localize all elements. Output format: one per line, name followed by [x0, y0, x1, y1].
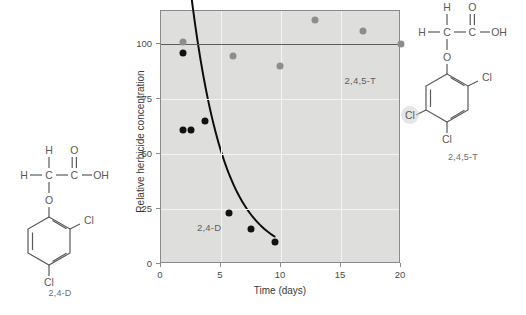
y-tick	[156, 263, 160, 264]
data-point-24d	[272, 239, 279, 246]
data-point-245t	[179, 38, 186, 45]
data-point-24d	[179, 49, 186, 56]
data-point-24d	[226, 210, 233, 217]
herbicide-scatter-chart: 2,4-D2,4,5-T 051015200255075100 Time (da…	[110, 0, 410, 300]
data-point-245t	[311, 16, 318, 23]
structure-245t-caption: 2,4,5-T	[400, 152, 526, 162]
atom-label-cl-para: Cl	[44, 276, 54, 288]
data-point-245t	[276, 63, 283, 70]
atom-label-o-double: O	[468, 1, 476, 13]
gridline-horizontal	[161, 99, 399, 100]
y-tick-label: 0	[126, 258, 152, 269]
x-tick-label: 15	[335, 269, 346, 280]
y-tick	[156, 98, 160, 99]
gridline-horizontal	[161, 209, 399, 210]
x-tick-label: 10	[275, 269, 286, 280]
plot-area: 2,4-D2,4,5-T	[160, 10, 400, 263]
structure-24d: H H C O C OH O Cl Cl 2,4-D	[0, 140, 120, 315]
atom-label-cl-para: Cl	[442, 133, 452, 145]
gridline-horizontal	[161, 154, 399, 155]
data-point-24d	[248, 225, 255, 232]
atom-label-c-alpha: C	[45, 169, 53, 181]
x-tick	[220, 263, 221, 267]
x-axis-title: Time (days)	[160, 285, 400, 296]
series-annotation-245t: 2,4,5-T	[345, 75, 377, 86]
x-tick	[160, 263, 161, 267]
atom-label-h-left: H	[20, 169, 28, 181]
herbicide-degradation-figure: H H C O C OH O Cl Cl 2,4-D	[0, 0, 526, 315]
y-tick	[156, 153, 160, 154]
y-axis-title: Relative herbicide concentration	[135, 32, 146, 252]
atom-label-o-ether: O	[45, 194, 53, 206]
y-tick	[156, 43, 160, 44]
atom-label-cl-ortho: Cl	[482, 71, 492, 83]
structure-245t: H H C O C OH O Cl Cl Cl 2,4,5-T	[400, 0, 526, 180]
atom-label-c-carboxyl: C	[71, 169, 79, 181]
data-point-24d	[179, 126, 186, 133]
x-tick	[400, 263, 401, 267]
decay-curve-path	[182, 0, 274, 237]
atom-label-h-top: H	[443, 1, 451, 13]
reference-line-100	[161, 44, 399, 45]
gridline-vertical	[341, 11, 342, 262]
atom-label-o-ether: O	[443, 51, 451, 63]
atom-label-o-double: O	[70, 144, 78, 156]
series-annotation-24d: 2,4-D	[197, 222, 221, 233]
structure-24d-caption: 2,4-D	[0, 288, 120, 298]
atom-label-oh: OH	[93, 169, 109, 181]
x-tick	[280, 263, 281, 267]
atom-label-c-alpha: C	[443, 26, 451, 38]
data-point-245t	[398, 41, 405, 48]
gridline-vertical	[281, 11, 282, 262]
x-tick-label: 20	[395, 269, 406, 280]
atom-label-cl-ortho: Cl	[84, 214, 94, 226]
data-point-245t	[359, 27, 366, 34]
x-tick-label: 5	[217, 269, 222, 280]
x-tick	[340, 263, 341, 267]
x-tick-label: 0	[157, 269, 162, 280]
y-tick	[156, 208, 160, 209]
data-point-24d	[202, 118, 209, 125]
atom-label-c-carboxyl: C	[469, 26, 477, 38]
atom-label-h-left: H	[418, 26, 426, 38]
atom-label-oh: OH	[491, 26, 507, 38]
data-point-245t	[230, 53, 237, 60]
data-point-24d	[188, 126, 195, 133]
atom-label-h-top: H	[45, 144, 53, 156]
